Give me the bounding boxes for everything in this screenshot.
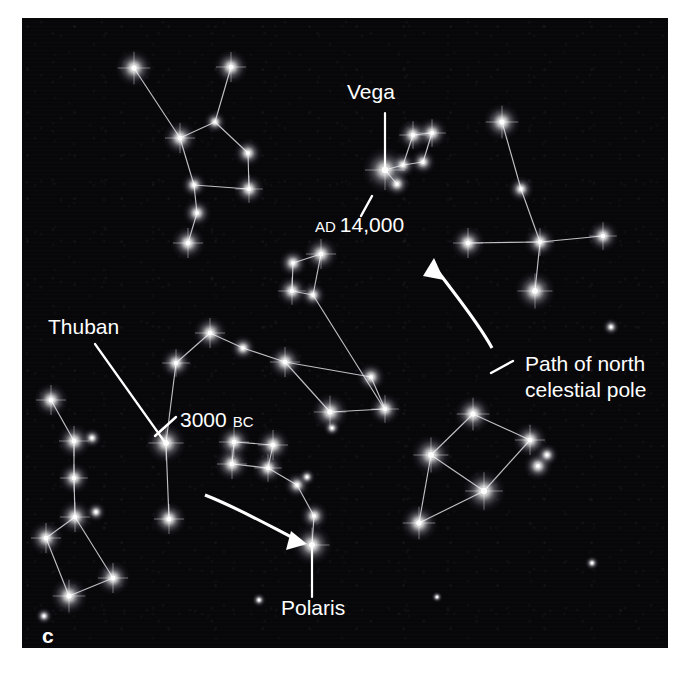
star-core-lyra-middle [311,293,315,297]
star-core-lyra-middle [291,261,295,265]
bc-year-value: 3000 [180,408,227,431]
ad-year-value: 14,000 [340,213,404,236]
constellation-line-lyra-middle [313,295,385,410]
star-core-ursa-minor [312,514,316,518]
bc-3000-label: 3000BC [180,408,254,431]
star-core-draco [369,375,373,379]
star-core-cepheus [246,151,250,155]
star-core-ursa-minor [295,483,299,487]
figure-panel-c: Vega AD14,000 Thuban 3000BC Polaris Path… [0,0,690,680]
star-core-field-stars [258,599,260,601]
star-core-field-stars [306,476,309,479]
vega-label: Vega [347,80,395,103]
star-core-draco [331,427,334,430]
star-core-ursa-major [91,437,94,440]
path-label-tick [491,361,513,373]
pole-path-arrows-group [205,258,492,550]
star-core-cepheus [192,183,196,187]
star-core-lyra-upper [421,160,425,164]
star-core-field-stars [43,615,46,618]
ad-14000-label: AD14,000 [315,213,404,236]
star-core-lyra-lower-right [536,464,540,468]
star-core-field-stars [610,326,613,329]
star-core-field-stars [591,562,593,564]
pole-path-arrow-lower [205,495,295,539]
panel-letter-c: c [42,624,54,647]
star-core-field-stars [95,511,98,514]
star-chart-image: Vega AD14,000 Thuban 3000BC Polaris Path… [22,18,668,648]
star-core-cepheus [195,211,199,215]
polaris-label: Polaris [281,596,345,619]
star-core-cepheus [213,120,216,123]
ad-era-prefix: AD [315,218,336,235]
bc-era-suffix: BC [233,413,254,430]
path-of-pole-label-line-1: Path of north [525,352,645,375]
star-core-lyra-upper [395,182,399,186]
pole-path-arrow-upper-head [423,258,444,280]
thuban-leader [95,344,164,441]
star-core-lyra-upper [401,163,405,167]
thuban-label: Thuban [48,315,119,338]
star-chart-svg: Vega AD14,000 Thuban 3000BC Polaris Path… [22,18,668,648]
star-core-cygnus [519,187,523,191]
path-of-pole-label-line-2: celestial pole [525,378,646,401]
star-core-draco [241,346,245,350]
star-core-field-stars [436,596,438,598]
